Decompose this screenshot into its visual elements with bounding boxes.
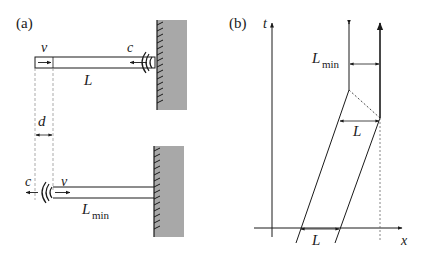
panel-b-label: (b) [229,15,247,32]
bottom-wall [154,146,184,237]
lower-L-label: L [311,232,320,248]
lmin-label: L [311,50,320,66]
t-axis-label: t [263,16,268,31]
bottom-c-label: c [25,174,32,189]
bottom-length-sub: min [92,209,110,221]
top-wall [157,20,187,110]
panel-a-label: (a) [16,15,33,32]
gap-d-label: d [38,113,46,129]
bottom-length-label: L [81,201,90,217]
top-rod [35,57,155,68]
rod-end-worldline [296,23,349,243]
top-length-label: L [83,72,92,88]
lmin-sub: min [322,58,340,70]
bottom-wave-icon [42,182,52,203]
bottom-rod [26,187,154,198]
top-v-label: v [41,40,48,55]
x-axis-label: x [400,233,408,248]
upper-L-label: L [352,123,361,139]
guide-lines [35,68,53,200]
figure: (a) v c L d [0,0,429,254]
bottom-v-label: v [61,174,68,189]
top-c-label: c [127,40,134,55]
signal-dashed-line [349,90,380,118]
